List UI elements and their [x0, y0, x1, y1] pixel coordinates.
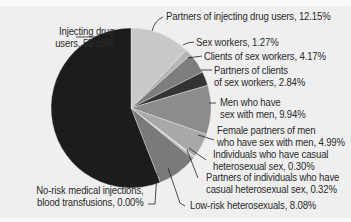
label-partners-of-clients: Partners of clients of sex workers, 2.84… — [214, 65, 305, 88]
label-injecting-drug-users: Injecting drug users, 55.95% — [55, 26, 114, 49]
label-female-partners-msm: Female partners of men who have sex with… — [217, 125, 345, 148]
label-no-risk-medical: No-risk medical injections, blood transf… — [37, 185, 144, 208]
label-casual-heterosexual: Individuals who have casual heterosexual… — [213, 149, 328, 172]
pie-slices — [51, 28, 211, 188]
leader-line-partners-idu — [152, 17, 163, 31]
label-low-risk-heterosexuals: Low-risk heterosexuals, 8.08% — [190, 200, 316, 212]
label-partners-of-idu: Partners of injecting drug users, 12.15% — [166, 11, 331, 23]
label-sex-workers: Sex workers, 1.27% — [196, 37, 279, 49]
leader-line-sex-workers — [183, 42, 194, 45]
label-partners-casual-heterosexual: Partners of individuals who have casual … — [206, 172, 339, 195]
label-msm: Men who have sex with men, 9.94% — [220, 97, 306, 120]
label-clients-of-sex-workers: Clients of sex workers, 4.17% — [204, 51, 326, 63]
